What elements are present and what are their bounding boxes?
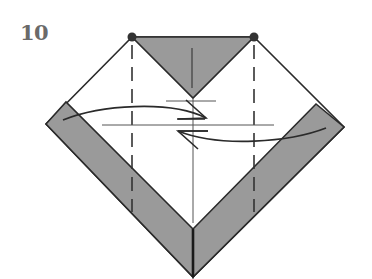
left-dot — [128, 33, 137, 42]
right-dot — [250, 33, 259, 42]
origami-diagram — [0, 0, 372, 279]
